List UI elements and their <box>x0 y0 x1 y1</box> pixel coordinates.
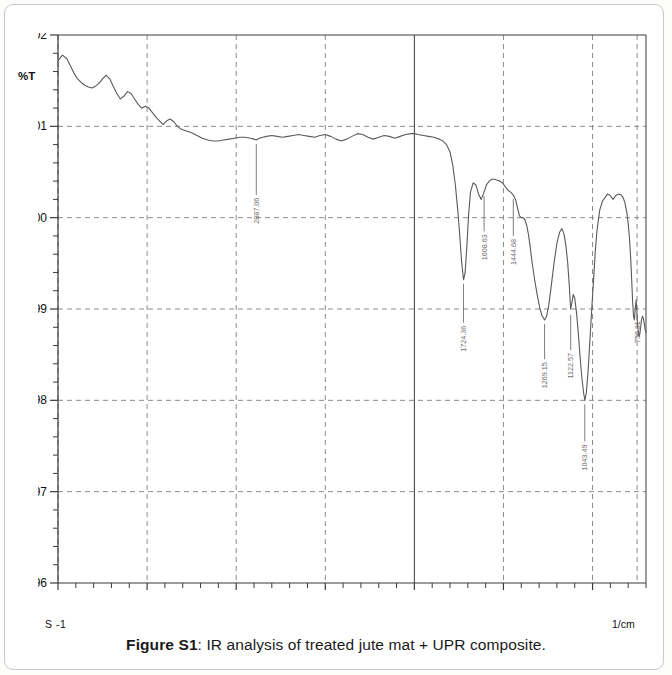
peak-label: 1608.63 <box>480 234 489 260</box>
peak-annotation: 1724.36 <box>459 284 468 352</box>
ir-spectrum-chart: 9697989910010110240003500300025002000150… <box>38 33 658 595</box>
peak-label: 2887.06 <box>252 198 261 224</box>
peak-label: 1122.57 <box>566 353 575 378</box>
chart-plot-area: 9697989910010110240003500300025002000150… <box>38 33 658 595</box>
peak-annotation: 750.31 <box>633 318 642 343</box>
peak-annotation: 1122.57 <box>566 315 575 379</box>
peak-label: 1043.49 <box>580 444 589 470</box>
peak-annotation: 2887.06 <box>252 144 261 224</box>
y-axis-tick-label: 102 <box>38 33 47 42</box>
peak-label: 1269.15 <box>540 362 549 388</box>
y-axis-tick-label: 100 <box>38 211 47 225</box>
y-axis-tick-label: 98 <box>38 393 47 407</box>
peak-label: 1724.36 <box>459 326 468 352</box>
peak-annotation: 1444.68 <box>509 199 518 265</box>
figure-caption-prefix: Figure S1 <box>126 636 198 653</box>
y-axis-tick-label: 97 <box>38 485 47 499</box>
peak-label: 750.31 <box>633 321 642 343</box>
peak-annotation: 1043.49 <box>580 404 589 470</box>
figure-caption-text: : IR analysis of treated jute mat + UPR … <box>198 636 546 653</box>
ir-spectrum-figure: 9697989910010110240003500300025002000150… <box>0 0 672 675</box>
y-axis-label: %T <box>18 70 35 82</box>
peak-annotation: 1608.63 <box>480 196 489 260</box>
y-axis-tick-label: 99 <box>38 302 47 316</box>
peak-label: 1444.68 <box>509 239 518 265</box>
y-axis-tick-label: 101 <box>38 119 47 133</box>
figure-caption: Figure S1: IR analysis of treated jute m… <box>0 636 672 654</box>
figure-page: 9697989910010110240003500300025002000150… <box>0 0 672 675</box>
y-axis-tick-label: 96 <box>38 576 47 590</box>
x-axis-sub-label: S -1 <box>45 618 66 630</box>
peak-annotation: 1269.15 <box>540 324 549 388</box>
x-axis-unit-label: 1/cm <box>612 618 635 630</box>
spectrum-curve <box>58 55 646 400</box>
